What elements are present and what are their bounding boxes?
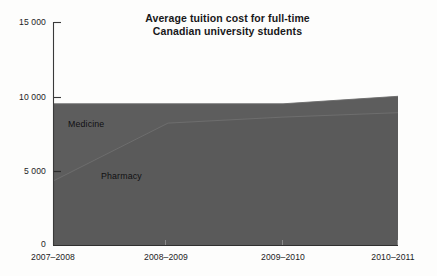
chart-title-line1: Average tuition cost for full-time <box>120 12 335 25</box>
chart-plot-area <box>0 0 437 276</box>
y-axis-label-0: 0 <box>0 239 46 249</box>
x-axis-label-2007-2008: 2007–2008 <box>8 252 98 262</box>
y-axis-label-5000: 5 000 <box>0 166 46 176</box>
series-label-medicine: Medicine <box>68 119 104 129</box>
x-axis-label-2009-2010: 2009–2010 <box>238 252 328 262</box>
chart-figure: Average tuition cost for full-time Canad… <box>0 0 437 276</box>
y-axis-label-10000: 10 000 <box>0 92 46 102</box>
x-axis-label-2008-2009: 2008–2009 <box>121 252 211 262</box>
chart-title: Average tuition cost for full-time Canad… <box>120 12 335 38</box>
x-axis-label-2010-2011: 2010–2011 <box>348 252 437 262</box>
chart-title-line2: Canadian university students <box>120 25 335 38</box>
series-label-pharmacy: Pharmacy <box>101 171 142 181</box>
y-axis-label-15000: 15 000 <box>0 17 46 27</box>
